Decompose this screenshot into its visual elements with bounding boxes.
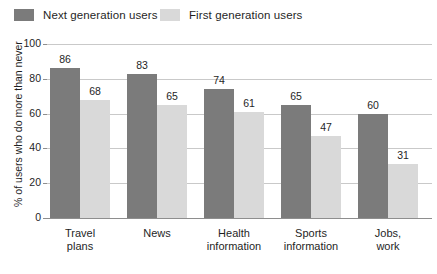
legend-label-first-generation: First generation users: [189, 9, 302, 21]
bar-value-label: 60: [353, 99, 393, 111]
chart-legend: Next generation users First generation u…: [0, 6, 437, 26]
y-axis-tick-label: 40: [1, 141, 41, 153]
bar-next-generation: [358, 114, 388, 218]
y-axis-tick-label: 0: [1, 211, 41, 223]
x-axis-tick-label-line: work: [340, 240, 436, 253]
bar-first-generation: [388, 164, 418, 218]
y-axis-tickmark: [43, 114, 47, 115]
y-axis-title: % of users who do more than never: [12, 29, 24, 219]
bar-first-generation: [80, 100, 110, 218]
y-axis-tickmark: [43, 148, 47, 149]
bar-value-label: 65: [152, 90, 192, 102]
bar-first-generation: [234, 112, 264, 218]
y-axis-tickmark: [43, 218, 47, 219]
x-axis-tick-label-line: plans: [32, 240, 128, 253]
y-axis-tick-label: 60: [1, 107, 41, 119]
legend-label-next-generation: Next generation users: [43, 9, 158, 21]
bar-value-label: 65: [276, 90, 316, 102]
bar-value-label: 31: [383, 149, 423, 161]
light-swatch-icon: [160, 9, 180, 21]
bar-value-label: 74: [199, 74, 239, 86]
gridline: [47, 44, 432, 45]
legend-item-first-generation: First generation users: [160, 6, 302, 24]
y-axis-tickmark: [43, 44, 47, 45]
x-axis-tick-label-line: Jobs,: [340, 227, 436, 240]
bar-value-label: 47: [306, 121, 346, 133]
y-axis-tickmark: [43, 183, 47, 184]
y-axis-tick-label: 20: [1, 176, 41, 188]
y-axis-tickmark: [43, 79, 47, 80]
x-axis-line: [47, 218, 432, 219]
bar-value-label: 68: [75, 85, 115, 97]
legend-item-next-generation: Next generation users: [14, 6, 158, 24]
bar-value-label: 83: [122, 59, 162, 71]
plot-area: 0204060801008668Travelplans8365News7461H…: [47, 44, 432, 218]
y-axis-tick-label: 100: [1, 37, 41, 49]
bar-value-label: 61: [229, 97, 269, 109]
bar-first-generation: [157, 105, 187, 218]
bar-first-generation: [311, 136, 341, 218]
gridline: [47, 79, 432, 80]
dark-swatch-icon: [14, 9, 34, 21]
y-axis-tick-label: 80: [1, 72, 41, 84]
bar-value-label: 86: [45, 53, 85, 65]
x-axis-tick-label: Jobs,work: [340, 227, 436, 252]
bar-chart: Next generation users First generation u…: [0, 0, 437, 274]
